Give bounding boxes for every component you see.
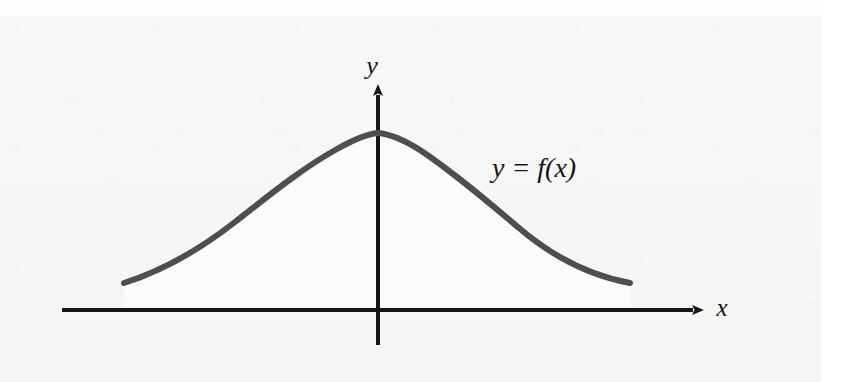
x-axis-label: x — [715, 294, 727, 321]
curve-equation-label: y = f(x) — [489, 152, 576, 183]
graph-plot: y x y = f(x) — [0, 0, 846, 382]
y-axis-label: y — [363, 51, 378, 80]
figure-container: y x y = f(x) — [0, 0, 846, 382]
